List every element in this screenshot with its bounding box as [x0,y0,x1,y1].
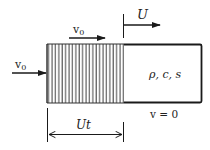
inlet-velocity-label: v0 [14,58,26,72]
front-speed-label: U [137,7,149,22]
material-properties-label: ρ, c, s [148,68,182,81]
shock-front-diagram: v0 v0 U ρ, c, s v = 0 Ut [0,0,210,150]
rest-velocity-label: v = 0 [149,108,178,120]
region-velocity-label: v0 [72,23,84,37]
distance-label: Ut [76,118,91,132]
compressed-region [47,44,124,103]
